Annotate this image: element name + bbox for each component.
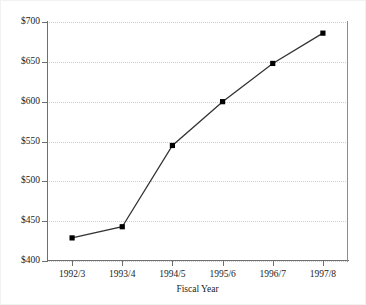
data-point-marker bbox=[69, 235, 74, 240]
y-axis-tick-label: $650 bbox=[0, 57, 40, 67]
x-axis-tick bbox=[223, 261, 224, 266]
data-point-marker bbox=[270, 61, 275, 66]
y-axis-tick-label: $700 bbox=[0, 17, 40, 27]
x-axis-tick bbox=[72, 261, 73, 266]
x-axis-title: Fiscal Year bbox=[47, 285, 348, 295]
data-series-layer bbox=[47, 22, 348, 261]
y-axis-tick-label: $400 bbox=[0, 256, 40, 266]
x-axis-tick bbox=[122, 261, 123, 266]
x-axis-tick bbox=[172, 261, 173, 266]
line-chart-figure: $400$450$500$550$600$650$700 1992/31993/… bbox=[0, 0, 366, 305]
y-axis-tick-label: $550 bbox=[0, 137, 40, 147]
data-point-marker bbox=[120, 224, 125, 229]
x-axis-tick bbox=[273, 261, 274, 266]
data-point-marker bbox=[320, 31, 325, 36]
data-point-marker bbox=[220, 99, 225, 104]
data-point-marker bbox=[170, 143, 175, 148]
x-axis-tick-label: 1997/8 bbox=[291, 270, 355, 280]
y-axis-tick-label: $600 bbox=[0, 97, 40, 107]
y-axis-tick bbox=[42, 261, 47, 262]
data-line bbox=[72, 33, 323, 238]
x-axis-tick bbox=[323, 261, 324, 266]
y-axis-tick-label: $450 bbox=[0, 216, 40, 226]
y-axis-tick-label: $500 bbox=[0, 176, 40, 186]
